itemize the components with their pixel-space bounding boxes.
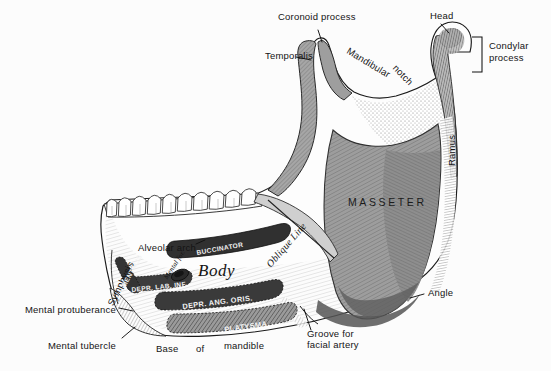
label-angle: Angle — [428, 288, 453, 299]
label-mandible-word: mandible — [224, 341, 264, 352]
label-base-word: Base — [156, 344, 178, 355]
label-ramus: Ramus — [447, 135, 458, 166]
label-masseter: MASSETER — [348, 197, 427, 209]
label-head: Head — [430, 11, 454, 22]
masseter-attachment-area — [324, 124, 441, 319]
label-groove-facial-artery-line2: facial artery — [307, 340, 359, 351]
anatomical-figure: Coronoid process Temporalis Mandibular n… — [0, 0, 551, 371]
label-alveolar-arch: Alveolar arch — [138, 243, 196, 254]
label-mental-tubercle: Mental tubercle — [48, 341, 116, 352]
label-condylar-process-line2: process — [489, 53, 524, 64]
label-temporalis: Temporalis — [265, 51, 313, 62]
label-body: Body — [198, 261, 235, 280]
label-condylar-process-line1: Condylar — [489, 41, 529, 52]
label-coronoid-process: Coronoid process — [278, 12, 356, 23]
condylar-process-bracket — [472, 37, 482, 72]
label-of-word: of — [196, 344, 204, 355]
label-mental-protuberance: Mental protuberance — [25, 305, 116, 316]
